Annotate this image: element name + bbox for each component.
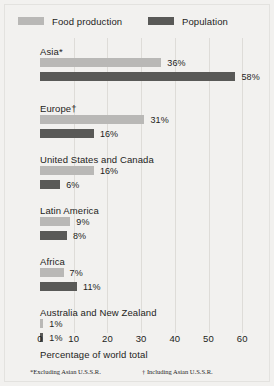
- gridline-50: [209, 38, 210, 333]
- legend-label-population: Population: [182, 16, 228, 27]
- x-axis-tick-50: 50: [203, 333, 214, 344]
- bar-row: 8%: [40, 231, 86, 240]
- bar-value-label: 58%: [241, 72, 259, 82]
- bar-row: 7%: [40, 268, 83, 277]
- bar-value-label: 9%: [76, 217, 89, 227]
- x-axis-tick-0: 0: [37, 333, 42, 344]
- bar-value-label: 1%: [49, 319, 62, 329]
- bar-row: 31%: [40, 115, 169, 124]
- bar-row: 6%: [40, 180, 79, 189]
- legend-label-food-production: Food production: [52, 16, 122, 27]
- x-axis-tick-20: 20: [102, 333, 113, 344]
- bar-value-label: 31%: [150, 115, 168, 125]
- grouped-bar-chart: Food production Population Asia*36%58%Eu…: [0, 0, 274, 386]
- x-axis-tick-60: 60: [237, 333, 248, 344]
- group-label: Latin America: [40, 205, 99, 216]
- group-label: Australia and New Zealand: [40, 307, 157, 318]
- bar: [40, 282, 77, 291]
- legend-swatch-population: [148, 17, 174, 25]
- gridline-30: [141, 38, 142, 333]
- group-label: Asia*: [40, 46, 63, 57]
- bar-value-label: 7%: [70, 268, 83, 278]
- bar-row: 16%: [40, 129, 118, 138]
- bar-row: 11%: [40, 282, 101, 291]
- x-axis-title: Percentage of world total: [40, 349, 148, 360]
- footnote-including-asian-ussr: † Including Asian U.S.S.R.: [142, 368, 213, 375]
- x-axis-tick-40: 40: [169, 333, 180, 344]
- bar-value-label: 8%: [73, 231, 86, 241]
- plot-area: Asia*36%58%Europe†31%16%United States an…: [0, 38, 274, 333]
- bar-row: 1%: [40, 319, 63, 328]
- bar: [40, 231, 67, 240]
- x-axis: 0102030405060: [0, 333, 274, 349]
- gridline-40: [175, 38, 176, 333]
- bar: [40, 217, 70, 226]
- bar: [40, 166, 94, 175]
- bar: [40, 268, 64, 277]
- bar-value-label: 16%: [100, 166, 118, 176]
- bar: [40, 72, 235, 81]
- group-label: Africa: [40, 256, 65, 267]
- chart-footnotes: *Excluding Asian U.S.S.R. † Including As…: [30, 368, 274, 380]
- group-label: United States and Canada: [40, 154, 154, 165]
- gridline-60: [242, 38, 243, 333]
- chart-legend: Food production Population: [0, 14, 274, 28]
- legend-swatch-food-production: [18, 17, 44, 25]
- bar: [40, 319, 43, 328]
- bar-row: 16%: [40, 166, 118, 175]
- bar-row: 9%: [40, 217, 90, 226]
- bar: [40, 58, 161, 67]
- bar: [40, 180, 60, 189]
- bar: [40, 115, 144, 124]
- bar-value-label: 16%: [100, 129, 118, 139]
- x-axis-tick-30: 30: [136, 333, 147, 344]
- bar-value-label: 11%: [83, 282, 101, 292]
- x-axis-tick-10: 10: [68, 333, 79, 344]
- group-label: Europe†: [40, 103, 77, 114]
- bar-row: 36%: [40, 58, 186, 67]
- bar-value-label: 36%: [167, 58, 185, 68]
- gridline-20: [107, 38, 108, 333]
- bar: [40, 129, 94, 138]
- legend-item-food-production: Food production: [18, 14, 122, 28]
- footnote-excluding-asian-ussr: *Excluding Asian U.S.S.R.: [30, 368, 101, 375]
- bar-value-label: 6%: [66, 180, 79, 190]
- legend-item-population: Population: [148, 14, 228, 28]
- bar-row: 58%: [40, 72, 260, 81]
